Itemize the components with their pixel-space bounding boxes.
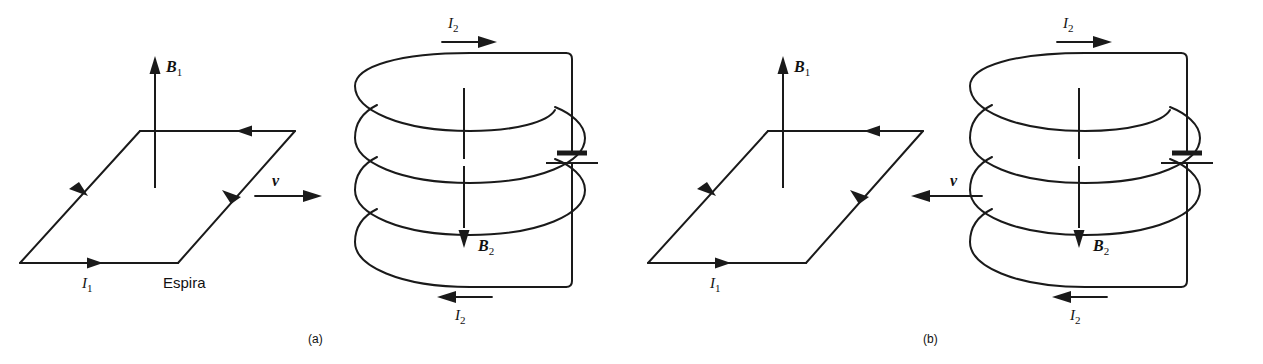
loop-bottom-current-arrowhead-a — [87, 258, 103, 269]
velocity-arrow-a — [255, 190, 322, 202]
b1-label-b: B1 — [793, 58, 810, 78]
figure-canvas: B1 I1 Espira v — [0, 0, 1263, 364]
coil-bottom-current-arrowhead-a — [437, 291, 456, 303]
circuit-wire-top-a — [566, 53, 572, 152]
loop-left-current-arrowhead-b — [697, 182, 716, 196]
coil-bottom-current-b — [1052, 291, 1107, 303]
coil-top-current-b — [1057, 36, 1112, 48]
espira-label-a: Espira — [163, 274, 206, 291]
coil-helix-b — [970, 53, 1200, 287]
velocity-label-b: v — [950, 172, 958, 189]
b2-arrowhead-a — [459, 230, 470, 248]
coil-top-current-label-a: I2 — [447, 15, 459, 34]
coil-bottom-current-a — [437, 291, 492, 303]
loop-outline-b — [648, 131, 923, 263]
circuit-wire-top-b — [1181, 53, 1187, 152]
coil-turn-1-b — [970, 53, 1181, 131]
loop-right-current-arrowhead-b — [850, 190, 869, 204]
coil-turn-1-a — [355, 53, 566, 131]
velocity-arrowhead-b — [911, 190, 930, 202]
loop-top-current-arrowhead-b — [864, 126, 880, 137]
coil-turn-2-b — [970, 105, 1200, 183]
loop-top-current-arrowhead-a — [236, 126, 252, 137]
circuit-wire-bottom-b — [1181, 163, 1187, 287]
coil-bottom-current-arrowhead-b — [1052, 291, 1071, 303]
b2-label-a: B2 — [477, 237, 494, 257]
velocity-arrowhead-a — [303, 190, 322, 202]
panel-b-loop: B1 I1 — [648, 56, 923, 294]
circuit-wire-bottom-a — [566, 163, 572, 287]
panel-a-coil: B2 I2 I2 — [355, 15, 598, 326]
b2-arrowhead-b — [1074, 230, 1085, 248]
b1-arrowhead-b — [778, 56, 789, 74]
coil-top-current-label-b: I2 — [1062, 15, 1074, 34]
panel-a-loop: B1 I1 Espira v — [20, 56, 322, 294]
coil-top-current-arrowhead-b — [1093, 36, 1112, 48]
b1-label-a: B1 — [165, 58, 182, 78]
caption-b: (b) — [923, 332, 938, 346]
loop-outline-a — [20, 131, 295, 263]
b1-arrowhead-a — [150, 56, 161, 74]
coil-circuit-wire-a — [566, 53, 572, 287]
coil-turn-3-b — [970, 157, 1200, 235]
coil-bottom-current-label-b: I2 — [1069, 307, 1081, 326]
loop-right-current-arrowhead-a — [222, 190, 241, 204]
loop-bottom-current-arrowhead-b — [715, 258, 731, 269]
loop-left-edge-a — [20, 131, 140, 263]
coil-turn-3-a — [355, 157, 585, 235]
caption-a: (a) — [308, 332, 323, 346]
i1-label-a: I1 — [81, 275, 93, 294]
b2-label-b: B2 — [1092, 237, 1109, 257]
coil-bottom-current-label-a: I2 — [454, 307, 466, 326]
velocity-label-a: v — [272, 172, 280, 189]
physics-figure: B1 I1 Espira v — [0, 0, 1263, 364]
panel-b-coil: v B2 I2 I2 — [911, 15, 1213, 326]
coil-turn-2-a — [355, 105, 585, 183]
coil-circuit-wire-b — [1181, 53, 1187, 287]
loop-left-edge-b — [648, 131, 768, 263]
coil-helix-a — [355, 53, 585, 287]
i1-label-b: I1 — [709, 275, 721, 294]
coil-top-current-a — [442, 36, 497, 48]
loop-left-current-arrowhead-a — [69, 182, 88, 196]
coil-top-current-arrowhead-a — [478, 36, 497, 48]
